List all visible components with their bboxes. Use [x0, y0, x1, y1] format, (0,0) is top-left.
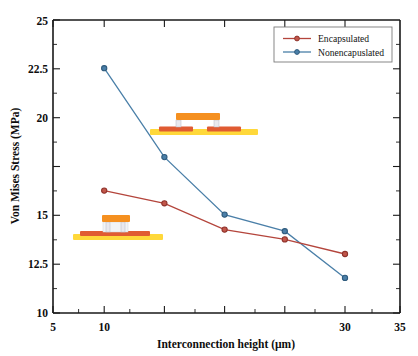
data-point: [342, 251, 347, 256]
y-tick-label-10: 10: [37, 307, 49, 319]
y-tick-label-20: 20: [37, 112, 49, 124]
y-axis-ticks: [53, 20, 400, 313]
legend-marker-encapsulated: [295, 36, 300, 41]
y-axis-tick-labels: 10 12.5 15 20 22.5 25: [28, 15, 48, 320]
data-point: [342, 275, 347, 280]
x-axis-tick-labels: 5 10 30 35: [50, 321, 406, 333]
x-axis-title: Interconnection height (µm): [157, 338, 295, 351]
plot-canvas: 10 12.5 15 20 22.5 25 5 10 30 35 Interco…: [0, 0, 418, 356]
data-point: [282, 229, 287, 234]
legend-marker-nonencapsulated: [295, 50, 300, 55]
y-tick-label-15: 15: [37, 209, 49, 221]
data-point: [102, 66, 107, 71]
chart-figure: 10 12.5 15 20 22.5 25 5 10 30 35 Interco…: [0, 0, 418, 356]
legend-label-nonencapsulated: Nonencapuslated: [318, 47, 384, 58]
nonencapsulated-schematic-inset: [150, 113, 258, 135]
data-point: [102, 188, 107, 193]
x-tick-label-5: 5: [50, 321, 56, 333]
data-point: [282, 237, 287, 242]
series-encapsulated: [102, 188, 348, 257]
series-nonencapsulated: [102, 66, 348, 281]
data-point: [162, 201, 167, 206]
y-tick-label-22-5: 22.5: [28, 63, 48, 75]
axes-frame: [53, 20, 400, 313]
y-tick-label-12-5: 12.5: [28, 258, 48, 270]
x-tick-label-10: 10: [98, 321, 110, 333]
x-tick-label-30: 30: [339, 321, 351, 333]
data-point: [222, 227, 227, 232]
y-tick-label-25: 25: [37, 15, 49, 27]
chart-legend[interactable]: Encapsulated Nonencapuslated: [274, 27, 392, 62]
encapsulated-schematic-inset: [73, 215, 163, 240]
data-point: [162, 155, 167, 160]
x-tick-label-35: 35: [394, 321, 406, 333]
x-axis-ticks: [53, 20, 400, 313]
y-axis-title: Von Mises Stress (MPa): [9, 108, 22, 225]
data-point: [222, 212, 227, 217]
legend-label-encapsulated: Encapsulated: [318, 33, 369, 44]
